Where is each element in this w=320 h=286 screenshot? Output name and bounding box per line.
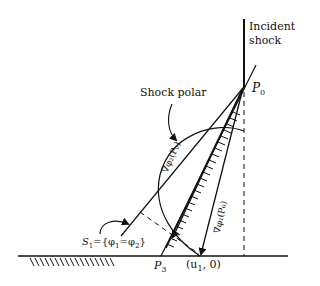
shock-polar-pointer <box>169 104 176 140</box>
incident-shock-label: Incident shock <box>249 20 295 48</box>
dashed-perpendicular <box>140 212 199 254</box>
wall-hatch <box>30 258 114 266</box>
s1-label: S1={φ1=φ2} <box>82 236 146 250</box>
p3-label: P3 <box>154 259 167 274</box>
shock-polar-label: Shock polar <box>140 86 207 99</box>
incident-label-line2: shock <box>249 34 295 48</box>
incident-label-line1: Incident <box>249 20 295 34</box>
p0-label: P0 <box>252 81 265 97</box>
grad-phi2-arrow <box>173 88 243 237</box>
u1-label: (u1, 0) <box>186 258 221 273</box>
